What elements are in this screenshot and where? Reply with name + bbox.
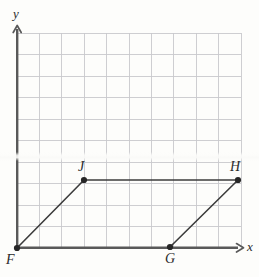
y-axis-label: y	[13, 7, 19, 20]
point-G	[167, 244, 173, 250]
graph-canvas	[0, 0, 259, 277]
point-label-H: H	[230, 160, 240, 174]
canvas-background	[0, 0, 259, 277]
point-J	[81, 177, 87, 183]
point-F	[14, 245, 20, 251]
point-label-G: G	[165, 252, 175, 266]
point-label-J: J	[78, 160, 84, 174]
x-axis-label: x	[247, 240, 253, 253]
coordinate-grid-figure: y x F J G H	[0, 0, 259, 277]
point-H	[235, 177, 241, 183]
point-label-F: F	[6, 253, 15, 267]
